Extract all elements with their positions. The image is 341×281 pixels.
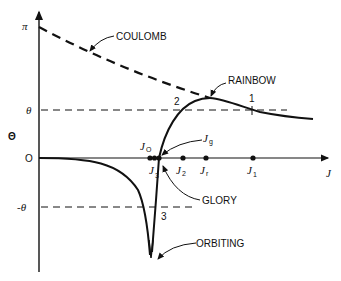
j2-label: J 2 bbox=[176, 164, 186, 177]
deflection-function-diagram: π θ O -θ Θ J COULOMB RAINBOW GLORY ORBIT… bbox=[0, 0, 341, 281]
y-axis-label: Θ bbox=[8, 131, 16, 142]
orbiting-singularity bbox=[149, 240, 153, 258]
svg-text:1: 1 bbox=[253, 171, 257, 178]
orbiting-leader bbox=[158, 243, 196, 259]
branch-2-number: 2 bbox=[174, 96, 180, 107]
deflection-curve-branch-1 bbox=[210, 98, 313, 119]
coulomb-leader bbox=[90, 36, 114, 51]
j2-point bbox=[180, 155, 185, 160]
branch-1-number: 1 bbox=[249, 93, 255, 104]
orbiting-label: ORBITING bbox=[196, 238, 245, 249]
svg-text:g: g bbox=[209, 138, 213, 146]
y-tick-pi: π bbox=[22, 20, 28, 32]
jr-label: J r bbox=[200, 164, 209, 177]
j0-point bbox=[147, 155, 152, 160]
j3-point bbox=[152, 155, 157, 160]
y-tick-neg-theta: -θ bbox=[17, 201, 27, 213]
coulomb-label: COULOMB bbox=[116, 31, 167, 42]
jg-label: J g bbox=[203, 132, 213, 146]
branch-3-number: 3 bbox=[161, 211, 167, 222]
y-tick-zero: O bbox=[25, 153, 33, 164]
jg-point bbox=[156, 155, 161, 160]
jg-leader bbox=[162, 140, 202, 155]
rainbow-leader bbox=[211, 83, 226, 96]
jr-point bbox=[203, 155, 208, 160]
deflection-curve-branch-2 bbox=[159, 98, 210, 158]
svg-text:r: r bbox=[206, 170, 209, 177]
rainbow-label: RAINBOW bbox=[228, 75, 276, 86]
j1-label: J 1 bbox=[247, 164, 257, 178]
y-tick-theta: θ bbox=[26, 104, 32, 116]
svg-text:3: 3 bbox=[155, 172, 159, 179]
svg-text:O: O bbox=[146, 146, 152, 153]
svg-text:2: 2 bbox=[182, 170, 186, 177]
x-axis-label: J bbox=[326, 167, 332, 179]
glory-label: GLORY bbox=[202, 195, 237, 206]
j0-label: J O bbox=[140, 140, 152, 153]
j1-point bbox=[250, 155, 255, 160]
